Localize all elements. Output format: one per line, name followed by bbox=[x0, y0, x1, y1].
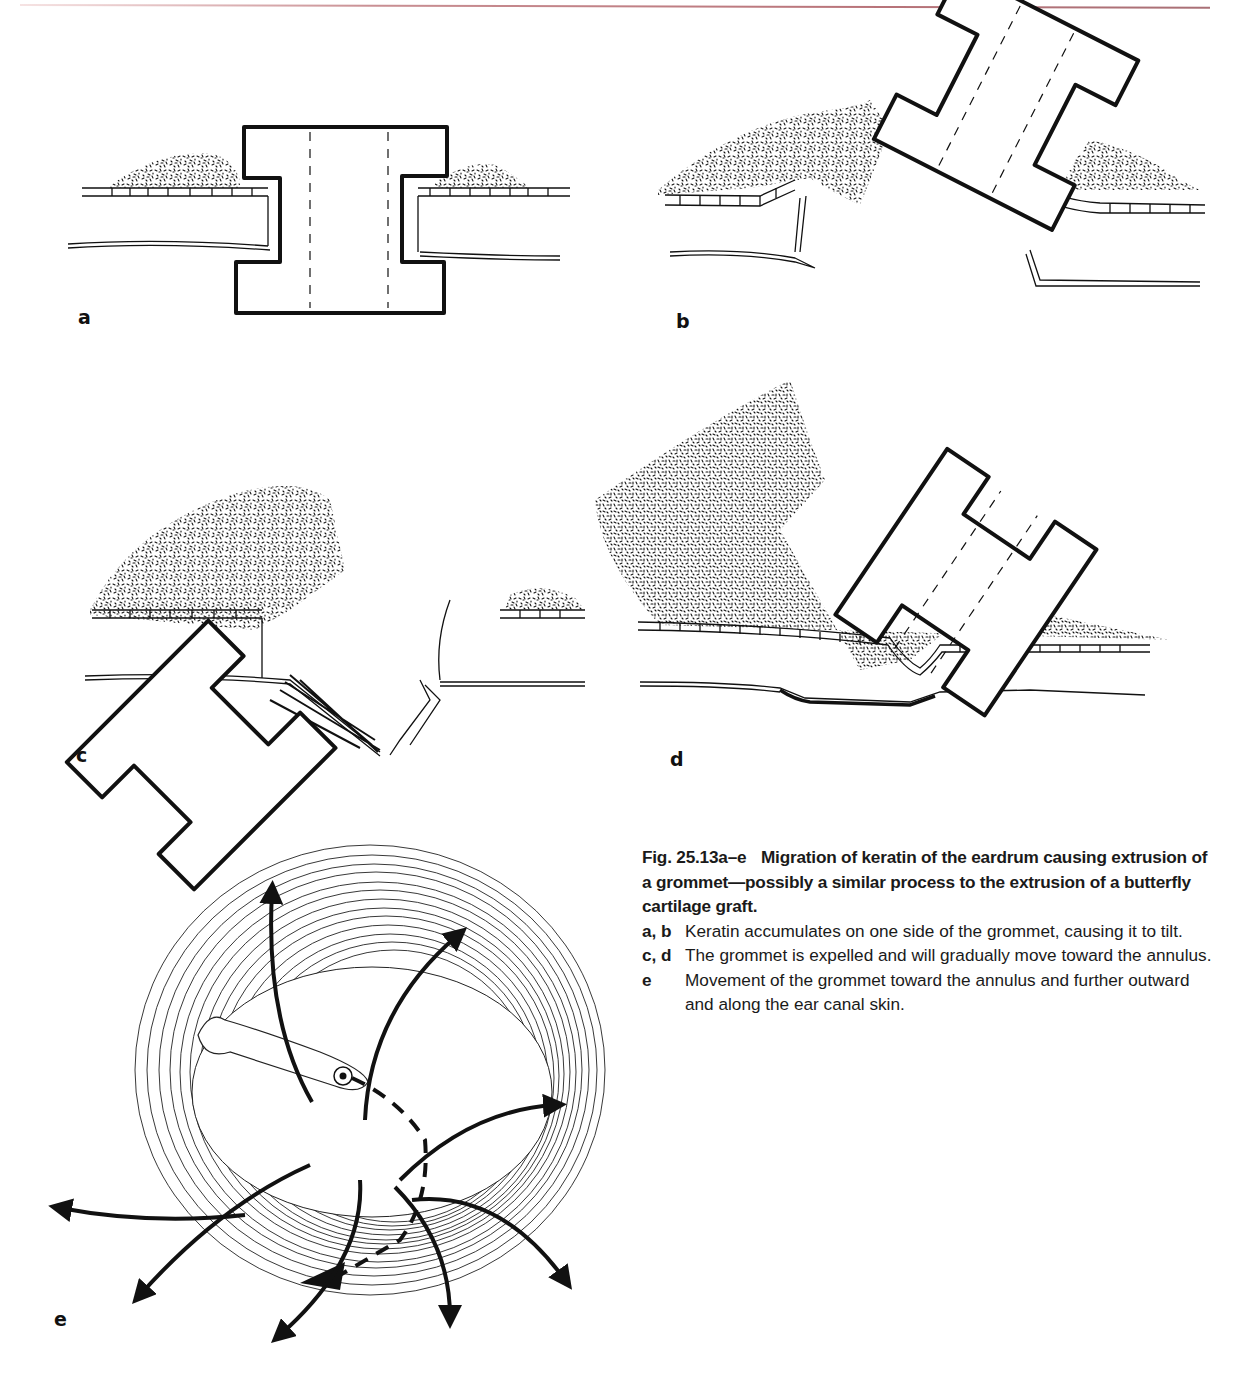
grommet-diagram-tilted bbox=[620, 0, 1255, 340]
caption-text: Keratin accumulates on one side of the g… bbox=[685, 919, 1212, 944]
panel-label-d: d bbox=[670, 748, 684, 770]
grommet-diagram-upright bbox=[0, 0, 620, 340]
caption-key: e bbox=[642, 968, 685, 1017]
eardrum-surface-view bbox=[0, 820, 630, 1340]
panel-label-a: a bbox=[78, 306, 91, 328]
figure-panel-e: e bbox=[0, 820, 630, 1340]
caption-item-cd: c, d The grommet is expelled and will gr… bbox=[642, 943, 1212, 968]
figure-panel-c: c bbox=[0, 400, 620, 800]
caption-item-e: e Movement of the grommet toward the ann… bbox=[642, 968, 1212, 1017]
panel-label-c: c bbox=[76, 744, 87, 766]
panel-label-e: e bbox=[54, 1308, 67, 1330]
caption-key: a, b bbox=[642, 919, 685, 944]
panel-label-b: b bbox=[676, 310, 690, 332]
caption-item-ab: a, b Keratin accumulates on one side of … bbox=[642, 919, 1212, 944]
figure-panel-b: b bbox=[620, 0, 1255, 340]
caption-key: c, d bbox=[642, 943, 685, 968]
figure-panel-a: a bbox=[0, 0, 620, 340]
caption-text: The grommet is expelled and will gradual… bbox=[685, 943, 1212, 968]
caption-text: Movement of the grommet toward the annul… bbox=[685, 968, 1212, 1017]
figure-panel-d: d bbox=[580, 360, 1255, 780]
caption-title: Fig. 25.13a–e Migration of keratin of th… bbox=[642, 845, 1212, 919]
figure-caption: Fig. 25.13a–e Migration of keratin of th… bbox=[642, 845, 1212, 1017]
grommet-diagram-migrated bbox=[580, 360, 1255, 780]
grommet-diagram-expelled bbox=[0, 400, 620, 800]
figure-number: Fig. 25.13a–e bbox=[642, 847, 746, 867]
